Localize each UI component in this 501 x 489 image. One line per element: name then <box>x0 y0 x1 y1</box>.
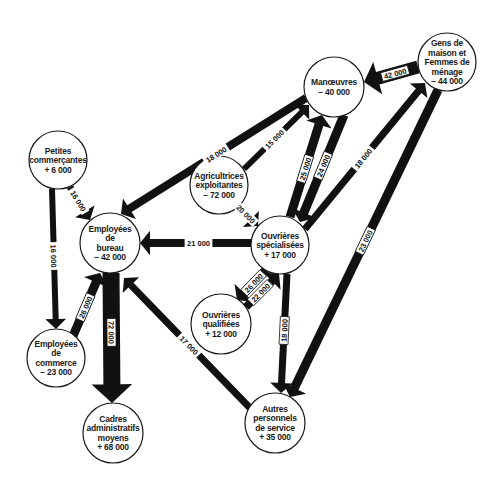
node-label: Employées <box>88 224 132 234</box>
flow-value: 20 000 <box>234 203 257 226</box>
flow-label: 16 000 <box>67 187 90 216</box>
flow-value: 16 000 <box>49 244 59 267</box>
node-manoeuvres: Manœuvres− 40 000 <box>304 57 364 117</box>
flow-value: 25 000 <box>298 157 313 182</box>
node-label: commerçantes <box>29 155 87 165</box>
flow-label: 18 000 <box>351 145 376 173</box>
flow-value: 23 000 <box>357 229 375 254</box>
node-label: Petites <box>45 146 72 156</box>
node-label: maison et <box>428 48 466 58</box>
node-label: Gens de <box>431 38 464 48</box>
node-value: + 68 000 <box>97 442 129 452</box>
node-label: Manœuvres <box>311 77 357 87</box>
node-autres-personnels: Autrespersonnelsde service+ 35 000 <box>245 393 305 453</box>
node-label: bureau <box>96 243 123 253</box>
flow-label: 21 000 <box>185 239 213 249</box>
flow-value: 18 000 <box>353 147 375 170</box>
flow-label: 26 000 <box>76 293 96 322</box>
node-label: de service <box>255 423 295 433</box>
node-label: de <box>105 233 115 243</box>
node-label: commerce <box>36 358 77 368</box>
node-cadres: Cadresadministratifsmoyens+ 68 000 <box>83 403 143 463</box>
node-value: + 17 000 <box>264 250 296 260</box>
node-label: Autres <box>262 404 288 414</box>
flow-label: 18 000 <box>279 316 290 344</box>
node-value: − 23 000 <box>40 367 72 377</box>
flow-label: 72 000 <box>106 318 116 346</box>
node-ouvrieres-qualifiees: Ouvrièresqualifiées+ 12 000 <box>191 294 251 354</box>
flow-value: 72 000 <box>106 321 115 344</box>
node-value: − 44 000 <box>431 76 463 86</box>
node-label: spécialisées <box>256 240 304 250</box>
node-value: + 6 000 <box>44 165 72 175</box>
flow-label: 25 000 <box>297 154 314 183</box>
node-label: Agricultrices <box>194 171 244 181</box>
node-ouvrieres-specialisees: Ouvrièresspécialisées+ 17 000 <box>251 216 309 274</box>
node-label: ménage <box>432 67 463 77</box>
flow-label: 23 000 <box>355 226 376 255</box>
node-label: personnels <box>253 413 297 423</box>
node-value: + 12 000 <box>205 329 237 339</box>
flow-label: 16 000 <box>49 242 59 270</box>
node-label: Femmes de <box>425 57 470 67</box>
flow-label: 20 000 <box>233 201 259 227</box>
flow-label: 24 000 <box>314 151 333 180</box>
flow-value: 21 000 <box>187 239 210 248</box>
flow-value: 18 000 <box>280 319 290 342</box>
mobility-flow-diagram: Manœuvres− 40 000Gens demaison etFemmes … <box>0 0 501 489</box>
node-gens-de-maison: Gens demaison etFemmes deménage− 44 000 <box>418 33 476 91</box>
node-value: − 42 000 <box>94 252 126 262</box>
flow-value: 26 000 <box>77 295 94 320</box>
node-label: qualifiées <box>202 319 240 329</box>
node-employees-commerce: Employéesdecommerce− 23 000 <box>27 329 85 387</box>
node-label: Cadres <box>99 414 127 424</box>
node-label: Employées <box>34 339 78 349</box>
node-label: moyens <box>98 433 129 443</box>
flow-value: 16 000 <box>68 189 88 213</box>
node-label: Ouvrières <box>202 310 240 320</box>
node-employees-bureau: Employéesdebureau− 42 000 <box>80 213 140 273</box>
node-petites-commercantes: Petitescommerçantes+ 6 000 <box>29 131 87 189</box>
node-value: − 40 000 <box>318 87 350 97</box>
flow-label: 15 000 <box>261 126 287 152</box>
node-label: de <box>51 348 61 358</box>
node-label: administratifs <box>87 423 140 433</box>
node-value: − 72 000 <box>203 190 235 200</box>
node-label: Ouvrières <box>261 231 299 241</box>
node-value: + 35 000 <box>259 432 291 442</box>
flow-value: 24 000 <box>315 154 332 179</box>
node-label: exploitantes <box>195 180 243 190</box>
flow-value: 15 000 <box>263 128 286 151</box>
